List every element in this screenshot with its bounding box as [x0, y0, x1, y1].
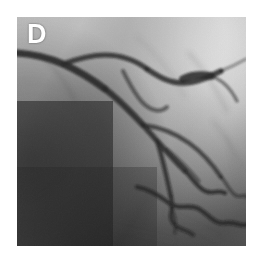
angiogram-canvas	[17, 17, 246, 246]
panel-label-d: D	[27, 21, 47, 48]
angiogram-image	[17, 17, 246, 246]
figure-panel-d: D	[0, 0, 263, 265]
film-grain-overlay	[17, 17, 246, 246]
